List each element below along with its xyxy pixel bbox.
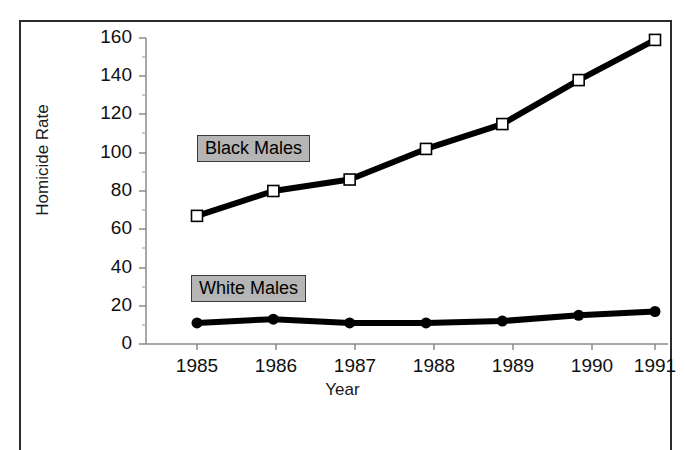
y-tick-label: 120 bbox=[72, 102, 132, 124]
x-tick-label: 1987 bbox=[310, 355, 400, 377]
x-major-ticks bbox=[197, 344, 655, 350]
y-tick-label: 40 bbox=[72, 256, 132, 278]
series-line-black-males bbox=[197, 40, 655, 216]
y-tick-label: 60 bbox=[72, 217, 132, 239]
y-axis-title: Homicide Rate bbox=[33, 80, 53, 240]
legend-label-black-males: Black Males bbox=[197, 135, 310, 162]
y-major-ticks bbox=[139, 38, 146, 344]
x-tick-label: 1989 bbox=[468, 355, 558, 377]
y-tick-label: 80 bbox=[72, 179, 132, 201]
x-tick-label: 1985 bbox=[152, 355, 242, 377]
y-tick-label: 160 bbox=[72, 26, 132, 48]
y-tick-label: 140 bbox=[72, 64, 132, 86]
y-tick-label: 20 bbox=[72, 294, 132, 316]
x-axis-title: Year bbox=[0, 380, 685, 400]
x-tick-label: 1988 bbox=[389, 355, 479, 377]
legend-label-white-males: White Males bbox=[191, 275, 306, 302]
x-tick-label: 1986 bbox=[231, 355, 321, 377]
y-tick-label: 100 bbox=[72, 141, 132, 163]
x-tick-label: 1991 bbox=[610, 355, 685, 377]
y-tick-label: 0 bbox=[72, 332, 132, 354]
